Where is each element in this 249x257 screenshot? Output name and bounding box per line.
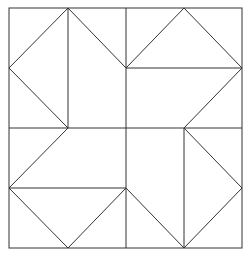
line-tr-diag-3 xyxy=(184,68,242,128)
line-tl-diag-3 xyxy=(68,8,126,68)
line-bl-diag-1 xyxy=(9,128,68,188)
line-br-diag-3 xyxy=(126,188,184,248)
quilt-block-diagram xyxy=(0,0,249,257)
line-tl-diag-1 xyxy=(9,8,68,68)
line-br-diag-2 xyxy=(184,188,242,248)
pattern-lines xyxy=(9,8,242,248)
line-tl-diag-2 xyxy=(9,68,68,128)
line-bl-diag-3 xyxy=(68,188,126,248)
line-tr-diag-2 xyxy=(184,8,242,68)
line-br-diag-1 xyxy=(184,128,242,188)
line-tr-diag-1 xyxy=(126,8,184,68)
line-bl-diag-2 xyxy=(9,188,68,248)
